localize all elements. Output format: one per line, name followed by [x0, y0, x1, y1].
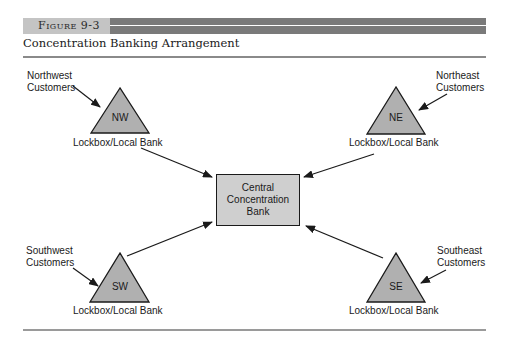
nw-customers-label: Northwest Customers	[27, 70, 75, 94]
sw-abbr: SW	[100, 281, 140, 292]
central-concentration-bank: Central Concentration Bank	[216, 174, 300, 226]
ne-customers-label: Northeast Customers	[436, 70, 484, 94]
bottom-divider	[23, 329, 486, 331]
sw-customers-label: Southwest Customers	[26, 245, 74, 269]
ne-abbr: NE	[376, 112, 416, 123]
sw-to-central-arrow	[127, 222, 212, 256]
se-bank-label: Lockbox/Local Bank	[349, 305, 439, 317]
sw-customers-line2: Customers	[26, 257, 74, 269]
sw-customers-line1: Southwest	[26, 245, 74, 257]
se-customers-line2: Customers	[437, 257, 485, 269]
se-triangle	[367, 253, 425, 302]
se-to-central-arrow	[306, 226, 383, 258]
sw-triangle	[90, 253, 149, 302]
ne-to-central-arrow	[304, 154, 374, 177]
nw-customers-line1: Northwest	[27, 70, 75, 82]
se-abbr: SE	[376, 281, 416, 292]
nw-abbr: NW	[100, 112, 140, 123]
nw-bank-label: Lockbox/Local Bank	[73, 137, 163, 149]
nw-triangle	[91, 88, 149, 133]
nw-customers-line2: Customers	[27, 82, 75, 94]
central-line1: Central	[227, 182, 289, 194]
nw-to-central-arrow	[141, 148, 212, 177]
ne-customer-arrow	[419, 94, 447, 110]
central-line3: Bank	[227, 206, 289, 218]
ne-bank-label: Lockbox/Local Bank	[349, 137, 439, 149]
ne-customers-line1: Northeast	[436, 70, 484, 82]
sw-customer-arrow	[73, 268, 98, 286]
ne-customers-line2: Customers	[436, 82, 484, 94]
diagram-canvas	[0, 0, 514, 344]
se-customers-line1: Southeast	[437, 245, 485, 257]
ne-triangle	[367, 87, 425, 134]
se-customer-arrow	[421, 270, 446, 283]
central-line2: Concentration	[227, 194, 289, 206]
nw-customer-arrow	[73, 86, 100, 107]
sw-bank-label: Lockbox/Local Bank	[73, 305, 163, 317]
se-customers-label: Southeast Customers	[437, 245, 485, 269]
